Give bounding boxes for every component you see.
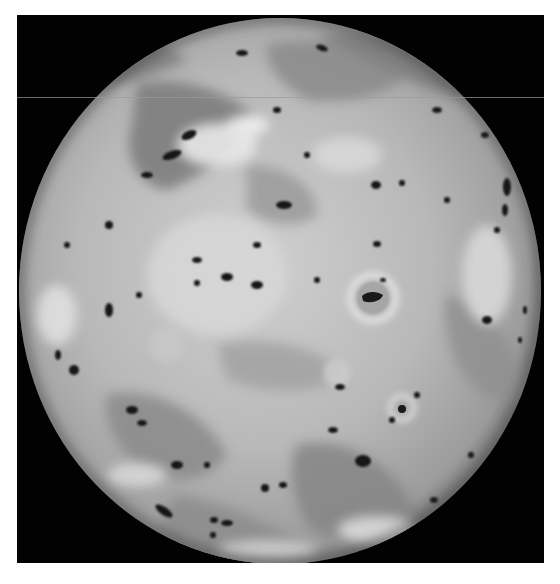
photo-frame	[17, 15, 544, 563]
ring-crater	[343, 268, 403, 328]
scanline-artifact	[17, 97, 544, 98]
io-moon-image	[17, 15, 544, 563]
